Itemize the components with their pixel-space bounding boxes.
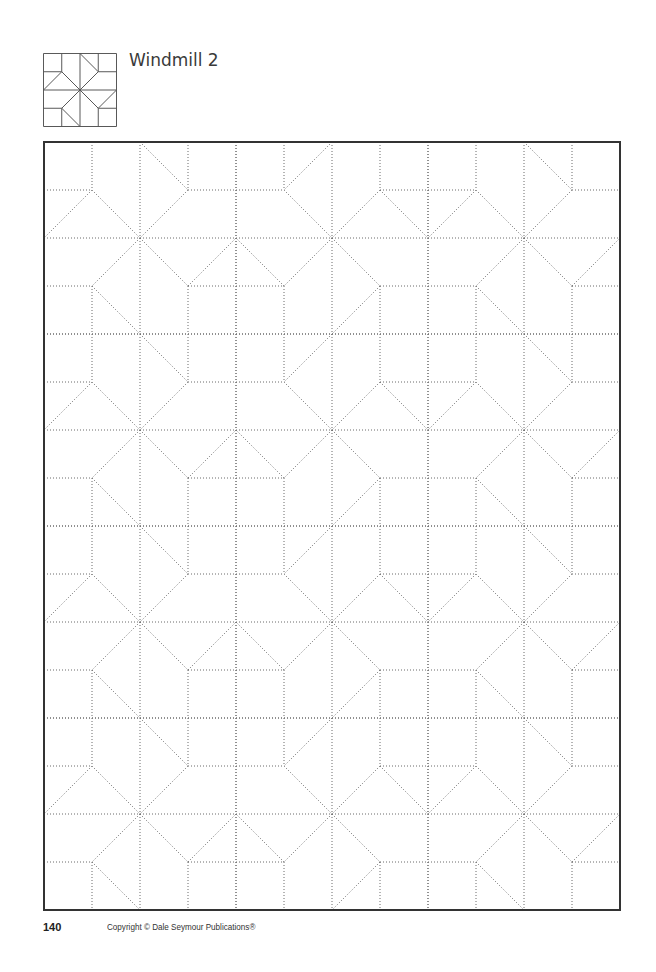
dotted-tessellation-grid — [43, 141, 621, 913]
block-thumbnail — [43, 53, 117, 127]
page-title: Windmill 2 — [129, 50, 219, 70]
page-number: 140 — [43, 921, 61, 933]
pattern-grid — [43, 141, 621, 913]
windmill-block-preview-icon — [43, 53, 117, 127]
copyright-notice: Copyright © Dale Seymour Publications® — [107, 922, 255, 932]
